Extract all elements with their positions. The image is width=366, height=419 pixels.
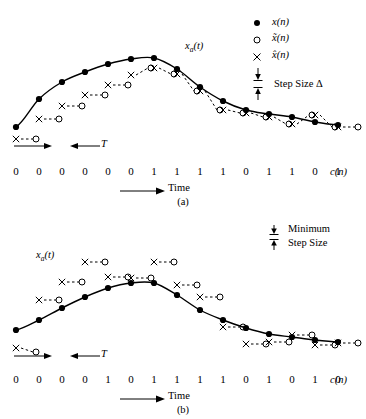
panel-b: xa(t) T 000010111101010 c(n) Time (b) Mi… [0, 205, 366, 419]
bit-value: 1 [262, 165, 276, 177]
bit-value: 0 [101, 165, 115, 177]
panel-b-code-label: c(n) [330, 374, 347, 385]
bit-value: 1 [193, 373, 207, 385]
bit-value: 1 [193, 165, 207, 177]
panel-b-step-size-label: Step Size [288, 237, 327, 248]
panel-a-code-label: c(n) [330, 166, 347, 177]
bit-value: 1 [216, 165, 230, 177]
panel-a-period-marker [0, 137, 140, 157]
filled-circle-icon [252, 18, 268, 28]
panel-b-caption: (b) [0, 404, 366, 415]
step-size-arrows-icon [252, 68, 268, 100]
bit-value: 1 [262, 373, 276, 385]
bit-value: 0 [9, 373, 23, 385]
bit-value: 1 [147, 165, 161, 177]
legend-label-1: x̃(n) [272, 32, 289, 43]
panel-b-curve-label: xa(t) [36, 249, 54, 263]
bit-value: 0 [124, 165, 138, 177]
bit-value: 0 [124, 373, 138, 385]
legend-label-0: x(n) [272, 16, 289, 27]
bit-value: 0 [239, 165, 253, 177]
panel-b-period-label: T [101, 348, 107, 359]
bit-value: 1 [170, 165, 184, 177]
panel-a-bit-row: 000000111101101 [0, 165, 366, 181]
panel-a: xa(t) T 000000111101101 c(n) Time (a) x(… [0, 0, 366, 210]
panel-a-period-label: T [101, 138, 107, 149]
bit-value: 1 [216, 373, 230, 385]
bit-value: 1 [101, 373, 115, 385]
bit-value: 0 [285, 373, 299, 385]
minimum-label: Minimum [288, 223, 330, 234]
legend-label-2: x̂(n) [272, 49, 289, 60]
bit-value: 1 [147, 373, 161, 385]
panel-b-time-label: Time [168, 390, 190, 401]
bit-value: 1 [285, 165, 299, 177]
bit-value: 1 [308, 373, 322, 385]
bit-value: 0 [55, 165, 69, 177]
min-step-arrows-icon [268, 225, 284, 255]
bit-value: 0 [78, 165, 92, 177]
step-size-label: Step Size Δ [274, 78, 323, 89]
panel-b-period-marker [0, 347, 140, 367]
bit-value: 0 [78, 373, 92, 385]
open-circle-icon [252, 35, 268, 45]
cross-icon [252, 52, 268, 62]
bit-value: 1 [170, 373, 184, 385]
panel-b-bit-row: 000010111101010 [0, 373, 366, 389]
bit-value: 0 [32, 373, 46, 385]
bit-value: 0 [239, 373, 253, 385]
bit-value: 0 [308, 165, 322, 177]
panel-a-curve-label: xa(t) [185, 40, 203, 54]
panel-a-time-label: Time [168, 182, 190, 193]
bit-value: 0 [9, 165, 23, 177]
bit-value: 0 [32, 165, 46, 177]
bit-value: 0 [55, 373, 69, 385]
